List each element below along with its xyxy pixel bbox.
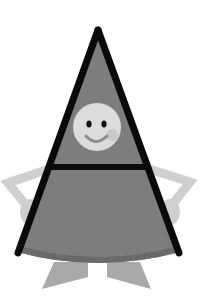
left-foot: [42, 262, 88, 289]
right-eye: [101, 120, 106, 127]
triangle-person-illustration: [0, 0, 202, 304]
right-foot: [107, 262, 151, 289]
smiley-face: [73, 103, 121, 151]
left-eye: [86, 120, 91, 127]
